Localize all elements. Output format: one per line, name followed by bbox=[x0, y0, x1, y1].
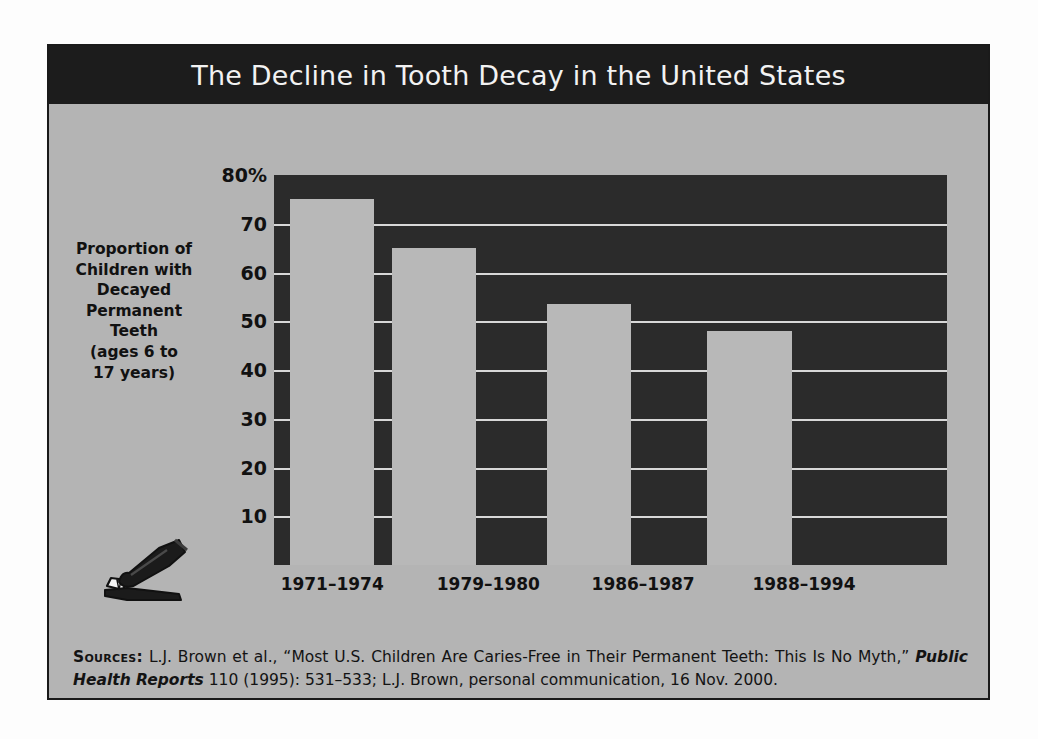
y-axis-title-line-5: Teeth bbox=[59, 321, 209, 342]
y-axis-tick-labels: 80% 70 60 50 40 30 20 10 bbox=[199, 175, 267, 565]
chart-title-band: The Decline in Tooth Decay in the United… bbox=[49, 46, 988, 104]
y-tick-60: 60 bbox=[205, 262, 267, 284]
sources-label: Sources: bbox=[73, 648, 143, 666]
y-tick-50: 50 bbox=[205, 310, 267, 332]
y-axis-title-line-3: Decayed bbox=[59, 280, 209, 301]
x-tick-1986-1987: 1986–1987 bbox=[588, 574, 699, 594]
y-axis-title-line-7: 17 years) bbox=[59, 363, 209, 384]
y-tick-40: 40 bbox=[205, 359, 267, 381]
plot-area bbox=[274, 175, 947, 565]
page-title: The Decline in Tooth Decay in the United… bbox=[191, 60, 845, 91]
x-tick-1971-1974: 1971–1974 bbox=[277, 574, 388, 594]
y-tick-10: 10 bbox=[205, 505, 267, 527]
y-tick-80: 80% bbox=[205, 164, 267, 186]
sources-text-part-1: L.J. Brown et al., “Most U.S. Children A… bbox=[143, 648, 915, 666]
x-tick-1988-1994: 1988–1994 bbox=[748, 574, 859, 594]
x-tick-1979-1980: 1979–1980 bbox=[433, 574, 544, 594]
y-axis-title-line-4: Permanent bbox=[59, 301, 209, 322]
y-axis-title: Proportion of Children with Decayed Perm… bbox=[59, 239, 209, 383]
bar-1979-1980 bbox=[392, 248, 476, 565]
bar-1971-1974 bbox=[290, 199, 374, 565]
y-tick-30: 30 bbox=[205, 408, 267, 430]
x-axis-tick-labels: 1971–1974 1979–1980 1986–1987 1988–1994 bbox=[274, 574, 947, 606]
bar-1986-1987 bbox=[547, 304, 631, 565]
y-axis-title-line-6: (ages 6 to bbox=[59, 342, 209, 363]
y-tick-20: 20 bbox=[205, 457, 267, 479]
toothpaste-tube-and-toothbrush-icon bbox=[75, 528, 195, 614]
y-tick-70: 70 bbox=[205, 213, 267, 235]
y-axis-title-line-1: Proportion of bbox=[59, 239, 209, 260]
bar-1988-1994 bbox=[707, 331, 791, 565]
chart-area: Proportion of Children with Decayed Perm… bbox=[49, 104, 988, 644]
sources-text-part-2: 110 (1995): 531–533; L.J. Brown, persona… bbox=[204, 671, 778, 689]
sources-note: Sources: L.J. Brown et al., “Most U.S. C… bbox=[73, 646, 968, 693]
y-axis-title-line-2: Children with bbox=[59, 260, 209, 281]
bar-series bbox=[274, 175, 947, 565]
figure-page: The Decline in Tooth Decay in the United… bbox=[0, 0, 1038, 739]
figure-frame: The Decline in Tooth Decay in the United… bbox=[47, 44, 990, 700]
